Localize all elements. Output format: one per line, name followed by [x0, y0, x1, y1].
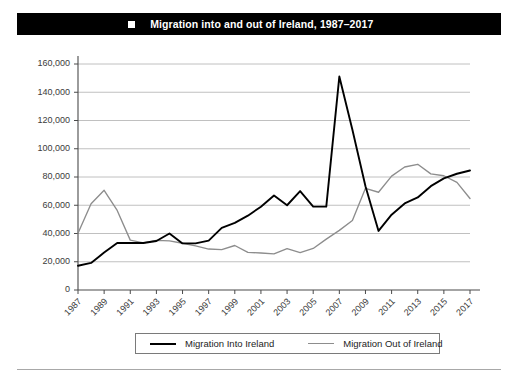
x-tick-label: 2001: [245, 296, 266, 317]
figure-header: FIGURE 2.5 Migration into and out of Ire…: [17, 13, 501, 35]
legend-label-out: Migration Out of Ireland: [343, 338, 442, 349]
series-migration-out-of-ireland: [78, 164, 470, 254]
x-tick-label: 2015: [428, 296, 449, 317]
y-tick-label: 160,000: [37, 58, 70, 68]
legend-item-migration-into-ireland: Migration Into Ireland: [150, 338, 274, 349]
bottom-divider: [17, 369, 501, 370]
chart-legend: Migration Into Ireland Migration Out of …: [135, 333, 440, 354]
legend-item-migration-out-of-ireland: Migration Out of Ireland: [308, 338, 442, 349]
x-axis-ticks: 1987198919911993199519971999200120032005…: [62, 290, 475, 318]
x-tick-label: 1999: [219, 296, 240, 317]
chart-container: 020,00040,00060,00080,000100,000120,0001…: [0, 40, 518, 358]
x-tick-label: 2013: [402, 296, 423, 317]
line-chart: 020,00040,00060,00080,000100,000120,0001…: [0, 40, 518, 358]
y-tick-label: 80,000: [42, 171, 70, 181]
legend-swatch-out-icon: [308, 343, 334, 344]
gridlines: [78, 64, 470, 262]
square-bullet-icon: [128, 21, 135, 28]
x-tick-label: 1995: [167, 296, 188, 317]
series-migration-into-ireland: [78, 77, 470, 266]
x-tick-label: 1991: [114, 296, 135, 317]
x-tick-label: 1989: [88, 296, 109, 317]
x-tick-label: 1993: [141, 296, 162, 317]
y-tick-label: 140,000: [37, 87, 70, 97]
x-tick-label: 1997: [193, 296, 214, 317]
y-tick-label: 120,000: [37, 115, 70, 125]
x-tick-label: 2007: [324, 296, 345, 317]
legend-swatch-into-icon: [150, 343, 176, 345]
legend-label-into: Migration Into Ireland: [185, 338, 274, 349]
x-tick-label: 2009: [350, 296, 371, 317]
y-axis-ticks: 020,00040,00060,00080,000100,000120,0001…: [37, 58, 78, 294]
x-tick-label: 2003: [271, 296, 292, 317]
y-tick-label: 40,000: [42, 228, 70, 238]
y-tick-label: 60,000: [42, 200, 70, 210]
y-tick-label: 100,000: [37, 143, 70, 153]
x-tick-label: 1987: [62, 296, 83, 317]
x-tick-label: 2011: [376, 296, 397, 317]
figure-title: Migration into and out of Ireland, 1987–…: [150, 18, 373, 30]
y-tick-label: 0: [65, 284, 70, 294]
x-tick-label: 2005: [297, 296, 318, 317]
x-tick-label: 2017: [454, 296, 475, 317]
y-tick-label: 20,000: [42, 256, 70, 266]
figure-number: FIGURE 2.5: [28, 15, 115, 33]
